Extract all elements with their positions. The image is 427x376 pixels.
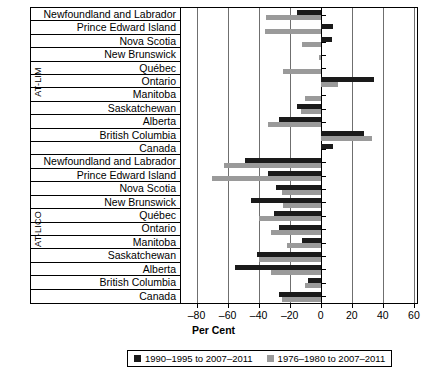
category-label: Québec <box>31 209 180 222</box>
bar-1990 <box>321 144 333 149</box>
bar-1976 <box>212 176 321 181</box>
bar-1976 <box>319 55 321 60</box>
x-tick <box>414 303 415 308</box>
chart-figure: AT-LIM AT-LICO Newfoundland and Labrador… <box>0 0 427 376</box>
x-tick <box>290 303 291 308</box>
legend-item-1976: 1976–1980 to 2007–2011 <box>267 353 386 364</box>
row-tick <box>322 283 326 284</box>
chart-legend: 1990–1995 to 2007–2011 1976–1980 to 2007… <box>127 350 392 367</box>
row-tick <box>322 55 326 56</box>
bar-1976 <box>287 243 321 248</box>
bar-1976 <box>305 283 321 288</box>
category-label: New Brunswick <box>31 48 180 61</box>
category-label: New Brunswick <box>31 196 180 209</box>
row-tick <box>322 15 326 16</box>
x-tick <box>228 303 229 308</box>
legend-label-1976: 1976–1980 to 2007–2011 <box>278 353 386 364</box>
x-tick-label: 60 <box>394 309 427 321</box>
x-tick <box>321 303 322 308</box>
bar-1976 <box>265 29 321 34</box>
plot-area <box>181 8 417 303</box>
bar-1976 <box>301 109 321 114</box>
category-label: Saskatchewan <box>31 102 180 115</box>
x-tick <box>259 303 260 308</box>
bar-1976 <box>266 15 320 20</box>
legend-swatch-1990-icon <box>134 355 141 362</box>
x-tick <box>197 303 198 308</box>
bar-1976 <box>321 136 372 141</box>
category-label: Newfoundland and Labrador <box>31 155 180 168</box>
category-label: Nova Scotia <box>31 182 180 195</box>
row-tick <box>322 122 326 123</box>
bar-1976 <box>305 96 321 101</box>
row-tick <box>322 256 326 257</box>
category-label: Canada <box>31 290 180 303</box>
gridline <box>414 8 415 303</box>
category-label: Nova Scotia <box>31 35 180 48</box>
row-tick <box>322 296 326 297</box>
row-tick <box>322 176 326 177</box>
category-label: Manitoba <box>31 88 180 101</box>
category-label: Manitoba <box>31 236 180 249</box>
bar-1990 <box>321 37 332 42</box>
category-label: Alberta <box>31 263 180 276</box>
bar-1976 <box>224 163 320 168</box>
bar-1976 <box>271 270 321 275</box>
bar-1976 <box>283 69 320 74</box>
x-axis-line <box>181 303 417 304</box>
category-label: Prince Edward Island <box>31 169 180 182</box>
bar-1976 <box>302 42 321 47</box>
category-label: Saskatchewan <box>31 249 180 262</box>
row-tick <box>322 95 326 96</box>
category-label: British Columbia <box>31 276 180 289</box>
row-tick <box>322 216 326 217</box>
gridline <box>197 8 198 303</box>
row-tick <box>322 243 326 244</box>
legend-swatch-1976-icon <box>267 355 274 362</box>
row-tick <box>322 162 326 163</box>
gridline <box>383 8 384 303</box>
bar-1976 <box>282 190 321 195</box>
legend-label-1990: 1990–1995 to 2007–2011 <box>145 353 253 364</box>
category-label: British Columbia <box>31 129 180 142</box>
bar-1976 <box>321 82 338 87</box>
bar-1976 <box>259 257 321 262</box>
bar-1990 <box>321 24 333 29</box>
bar-1976 <box>259 216 321 221</box>
row-tick <box>322 269 326 270</box>
bar-1976 <box>282 297 321 302</box>
category-label: Alberta <box>31 115 180 128</box>
category-label-column: Newfoundland and LabradorPrince Edward I… <box>31 8 181 303</box>
zero-line <box>321 8 322 303</box>
category-label: Newfoundland and Labrador <box>31 8 180 21</box>
category-label: Prince Edward Island <box>31 21 180 34</box>
legend-item-1990: 1990–1995 to 2007–2011 <box>134 353 253 364</box>
row-tick <box>322 229 326 230</box>
category-label: Canada <box>31 142 180 155</box>
x-tick <box>383 303 384 308</box>
gridline <box>228 8 229 303</box>
row-tick <box>322 109 326 110</box>
bar-1976 <box>268 122 321 127</box>
gridline <box>352 8 353 303</box>
x-axis-title: Per Cent <box>0 324 427 336</box>
x-tick <box>352 303 353 308</box>
row-tick <box>322 189 326 190</box>
bar-1976 <box>283 203 320 208</box>
category-label: Ontario <box>31 75 180 88</box>
category-label: Ontario <box>31 223 180 236</box>
row-tick <box>322 68 326 69</box>
bar-1976 <box>271 230 321 235</box>
row-tick <box>322 202 326 203</box>
category-label: Québec <box>31 62 180 75</box>
